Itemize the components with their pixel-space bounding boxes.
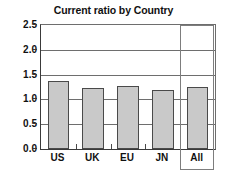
bar-chart: Current ratio by Country 0.00.51.01.52.0…: [0, 0, 227, 176]
bar: [82, 88, 104, 149]
x-axis-tick-label: JN: [155, 152, 168, 163]
plot-area: [40, 24, 216, 150]
x-axis-tick-label: EU: [120, 152, 134, 163]
y-axis-tick-label: 1.5: [3, 68, 37, 79]
x-axis-tick-mark: [145, 144, 146, 149]
y-axis-tick-mark: [33, 24, 37, 25]
gridline: [41, 50, 215, 51]
chart-title: Current ratio by Country: [0, 4, 227, 16]
x-axis-tick-label: UK: [85, 152, 99, 163]
y-axis-tick-label: 2.5: [3, 19, 37, 30]
y-axis-tick-label: 1.0: [3, 93, 37, 104]
x-axis-tick-label: US: [50, 152, 64, 163]
x-axis-tick-label: All: [190, 152, 203, 163]
y-axis-tick-label: 0.5: [3, 118, 37, 129]
y-axis-tick-label: 0.0: [3, 143, 37, 154]
y-axis: 0.00.51.01.52.02.5: [0, 24, 37, 150]
y-axis-tick-mark: [33, 49, 37, 50]
y-axis-tick-mark: [33, 74, 37, 75]
gridline: [41, 75, 215, 76]
bar: [187, 87, 209, 149]
bar: [48, 81, 70, 149]
x-axis: USUKEUJNAll: [40, 152, 216, 170]
bar: [117, 86, 139, 149]
y-axis-tick-mark: [33, 148, 37, 149]
bar: [152, 90, 174, 149]
y-axis-tick-label: 2.0: [3, 43, 37, 54]
x-axis-tick-mark: [76, 144, 77, 149]
x-axis-tick-mark: [111, 144, 112, 149]
x-axis-tick-mark: [180, 144, 181, 149]
y-axis-tick-mark: [33, 123, 37, 124]
y-axis-tick-mark: [33, 98, 37, 99]
